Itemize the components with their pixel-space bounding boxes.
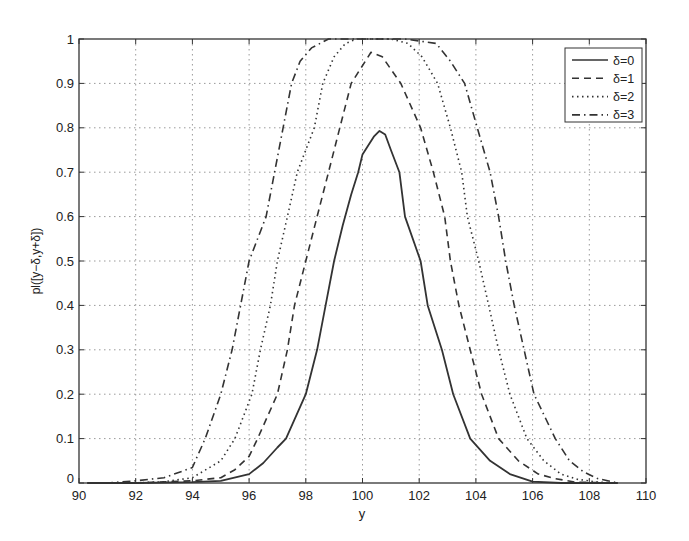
x-tick-label: 102 (408, 488, 430, 503)
x-tick-label: 96 (242, 488, 256, 503)
y-tick-label: 0.1 (56, 431, 74, 446)
y-axis-label: pl([y−δ,y+δ]) (29, 228, 43, 295)
legend-label: δ=2 (613, 90, 634, 104)
x-axis-label: y (359, 506, 366, 521)
y-tick-label: 0.4 (56, 298, 74, 313)
legend-label: δ=0 (613, 54, 634, 68)
grid-lines (79, 39, 646, 483)
x-tick-label: 98 (299, 488, 313, 503)
x-tick-label: 94 (185, 488, 199, 503)
series-lines (88, 39, 618, 483)
legend-label: δ=1 (613, 72, 634, 86)
x-tick-label: 106 (522, 488, 544, 503)
y-tick-label: 0.8 (56, 120, 74, 135)
y-tick-label: 0.2 (56, 387, 74, 402)
x-tick-label: 110 (636, 488, 657, 503)
y-axis-tick-labels: 00.10.20.30.40.50.60.70.80.91 (56, 32, 74, 487)
x-tick-label: 108 (578, 488, 600, 503)
chart-figure: 9092949698100102104106108110 00.10.20.30… (0, 0, 689, 541)
y-tick-label: 1 (67, 32, 74, 47)
legend: δ=0δ=1δ=2δ=3 (565, 48, 642, 122)
y-tick-label: 0.3 (56, 342, 74, 357)
x-tick-label: 90 (72, 488, 86, 503)
x-axis-tick-labels: 9092949698100102104106108110 (72, 488, 657, 503)
y-tick-label: 0.5 (56, 254, 74, 269)
series-line (88, 39, 618, 483)
y-tick-label: 0.9 (56, 76, 74, 91)
legend-label: δ=3 (613, 108, 634, 122)
series-line (88, 39, 618, 483)
line-chart: 9092949698100102104106108110 00.10.20.30… (0, 0, 689, 541)
series-line (88, 131, 618, 483)
y-tick-label: 0.6 (56, 209, 74, 224)
x-tick-label: 100 (352, 488, 374, 503)
x-tick-label: 92 (128, 488, 142, 503)
x-tick-label: 104 (465, 488, 487, 503)
series-line (88, 52, 618, 483)
y-tick-label: 0 (67, 471, 74, 486)
y-tick-label: 0.7 (56, 165, 74, 180)
